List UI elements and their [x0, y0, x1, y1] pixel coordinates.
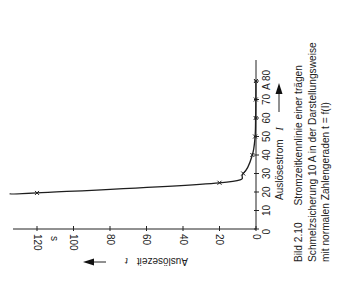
- time-tick-label: 80: [105, 234, 116, 246]
- current-tick-label: A 80: [261, 70, 272, 90]
- time-axis-title: Auslösezeit: [137, 256, 188, 267]
- current-axis-label: Auslösestrom I: [273, 83, 285, 200]
- current-tick-label: 10: [261, 204, 272, 216]
- time-tick-label: 120: [32, 234, 43, 251]
- time-tick-label: 0: [251, 234, 262, 240]
- current-tick-label: 70: [261, 93, 272, 105]
- time-axis-symbol: t: [124, 256, 128, 268]
- caption-line-2: Schmelzsicherung 10 A in der Darstellung…: [307, 42, 318, 262]
- caption-line-3: mit normalen Zahlengeraden t = f(I): [320, 102, 331, 262]
- figure-number: Bild 2.10: [293, 222, 304, 262]
- svg-text:Auslösezeit t: Auslösezeit t: [124, 256, 188, 268]
- time-axis-ticks: 020406080100120: [32, 226, 262, 251]
- time-tick-label: 40: [178, 234, 189, 246]
- time-tick-label: 20: [214, 234, 225, 246]
- time-axis-arrow-icon: [83, 259, 94, 266]
- caption-line-1: Stromzeitkennlinie einer trägen: [293, 65, 304, 205]
- current-tick-label: 30: [261, 167, 272, 179]
- time-tick-label: 100: [68, 234, 79, 251]
- figure-caption: Bild 2.10 Stromzeitkennlinie einer träge…: [293, 42, 331, 262]
- svg-text:Auslösestrom I: Auslösestrom I: [273, 126, 285, 200]
- fuse-characteristic-chart: 010203040506070A 80 020406080100120 s Au…: [0, 0, 345, 288]
- current-axis-ticks: 010203040506070A 80: [254, 70, 272, 235]
- current-tick-label: 50: [261, 130, 272, 142]
- svg-text:Bild 2.10 Stromzeitkennl: Bild 2.10 Stromzeitkennlinie einer träge…: [293, 65, 304, 262]
- time-tick-label: 60: [141, 234, 152, 246]
- current-axis-symbol: I: [273, 126, 285, 132]
- current-tick-label: 40: [261, 149, 272, 161]
- time-axis-label: Auslösezeit t: [83, 256, 188, 268]
- characteristic-curve: [10, 81, 256, 194]
- current-axis-title: Auslösestrom: [274, 139, 285, 200]
- axes: [13, 60, 256, 229]
- time-unit-label: s: [49, 236, 60, 241]
- current-tick-label: 0: [261, 229, 272, 235]
- current-tick-label: 60: [261, 112, 272, 124]
- data-markers: [35, 79, 258, 195]
- current-tick-label: 20: [261, 186, 272, 198]
- current-axis-arrow-icon: [276, 83, 283, 94]
